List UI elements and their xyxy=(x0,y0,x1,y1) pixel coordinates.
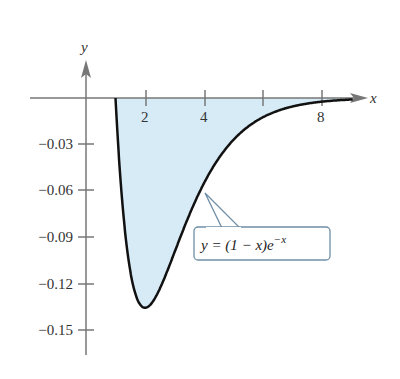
y-tick-label-006: −0.06 xyxy=(38,182,73,198)
x-tick-label-8: 8 xyxy=(317,109,325,125)
y-tick-label-003: −0.03 xyxy=(38,136,73,152)
x-axis-label: x xyxy=(369,90,377,106)
y-tick-label-009: −0.09 xyxy=(38,229,73,245)
function-callout: y = (1 − x)e−x xyxy=(194,193,330,260)
y-tick-label-015: −0.15 xyxy=(38,322,73,338)
x-tick-label-2: 2 xyxy=(141,109,149,125)
chart: x y 2 4 8 −0.03 −0.06 −0.09 −0.12 −0.15 … xyxy=(0,0,400,379)
function-label: y = (1 − x)e−x xyxy=(199,233,286,254)
y-axis-label: y xyxy=(79,39,88,55)
function-label-exponent: −x xyxy=(274,233,286,245)
function-label-base: y = (1 − x)e xyxy=(199,237,274,254)
shaded-area xyxy=(116,98,354,308)
x-tick-label-4: 4 xyxy=(200,109,208,125)
y-tick-label-012: −0.12 xyxy=(38,276,73,292)
